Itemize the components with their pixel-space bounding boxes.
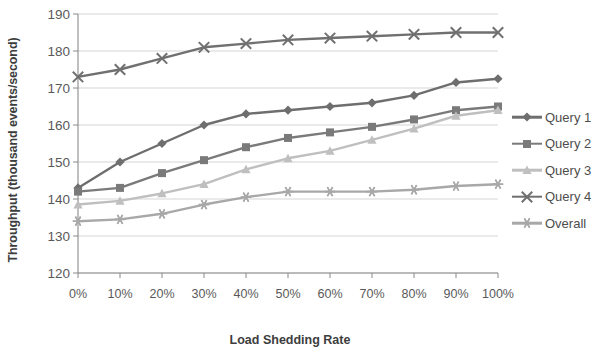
x-axis-tick-label: 10% — [107, 287, 132, 301]
series-line — [78, 184, 498, 221]
diamond-marker — [367, 98, 376, 107]
diamond-marker — [522, 113, 531, 122]
legend-label: Overall — [542, 216, 586, 231]
square-marker — [74, 188, 82, 196]
legend-item-2[interactable]: Query 2 — [512, 131, 608, 158]
asterisk-marker — [325, 187, 335, 196]
square-marker — [242, 143, 250, 151]
square-marker — [523, 140, 531, 148]
series-5 — [73, 180, 503, 226]
diamond-marker — [451, 78, 460, 87]
asterisk-marker — [157, 209, 167, 218]
x-axis-tick-label: 100% — [482, 287, 514, 301]
legend-item-5[interactable]: Overall — [512, 210, 608, 237]
legend-marker-diamond — [512, 108, 542, 126]
asterisk-marker — [451, 182, 461, 191]
legend-label: Query 1 — [542, 110, 591, 125]
legend-label: Query 3 — [542, 163, 591, 178]
x-axis-tick-label: 30% — [191, 287, 216, 301]
diamond-marker — [493, 74, 502, 83]
square-marker — [326, 128, 334, 136]
chart-figure: Throughput (thousand events/second) 1201… — [0, 0, 610, 357]
legend-glyph — [518, 188, 536, 206]
x-axis-tick-label: 90% — [443, 287, 468, 301]
legend-marker-asterisk — [512, 214, 542, 232]
asterisk-marker — [409, 185, 419, 194]
legend-marker-triangle — [512, 161, 542, 179]
diamond-marker — [325, 102, 334, 111]
diamond-marker — [157, 139, 166, 148]
x-axis-tick-label: 60% — [317, 287, 342, 301]
triangle-marker — [522, 166, 531, 175]
diamond-marker — [283, 106, 292, 115]
series-line — [78, 79, 498, 188]
series-line — [78, 107, 498, 192]
legend-marker-cross — [512, 188, 542, 206]
square-marker — [284, 134, 292, 142]
asterisk-marker — [241, 193, 251, 202]
series-4 — [73, 27, 503, 82]
asterisk-marker — [283, 187, 293, 196]
legend-label: Query 4 — [542, 189, 591, 204]
series-1 — [73, 74, 502, 192]
legend-glyph — [518, 161, 536, 179]
x-axis-tick-label: 50% — [275, 287, 300, 301]
asterisk-marker — [367, 187, 377, 196]
legend-glyph — [518, 108, 536, 126]
asterisk-marker — [115, 215, 125, 224]
legend-item-4[interactable]: Query 4 — [512, 184, 608, 211]
chart-legend: Query 1Query 2Query 3Query 4Overall — [512, 104, 608, 237]
legend-glyph — [518, 214, 536, 232]
cross-marker — [522, 192, 532, 202]
diamond-marker — [241, 109, 250, 118]
square-marker — [158, 169, 166, 177]
diamond-marker — [409, 91, 418, 100]
square-marker — [116, 184, 124, 192]
x-axis-tick-label: 70% — [359, 287, 384, 301]
asterisk-marker — [199, 200, 209, 209]
x-axis-tick-label: 80% — [401, 287, 426, 301]
legend-label: Query 2 — [542, 136, 591, 151]
x-axis-title: Load Shedding Rate — [80, 333, 500, 347]
square-marker — [200, 156, 208, 164]
diamond-marker — [199, 120, 208, 129]
legend-marker-square — [512, 135, 542, 153]
legend-glyph — [518, 135, 536, 153]
square-marker — [368, 123, 376, 131]
x-axis-tick-label: 20% — [149, 287, 174, 301]
series-2 — [74, 103, 502, 196]
x-axis-tick-label: 0% — [69, 287, 87, 301]
x-axis-tick-label: 40% — [233, 287, 258, 301]
legend-item-3[interactable]: Query 3 — [512, 157, 608, 184]
square-marker — [410, 115, 418, 123]
asterisk-marker — [522, 219, 532, 228]
legend-item-1[interactable]: Query 1 — [512, 104, 608, 131]
asterisk-marker — [493, 180, 503, 189]
